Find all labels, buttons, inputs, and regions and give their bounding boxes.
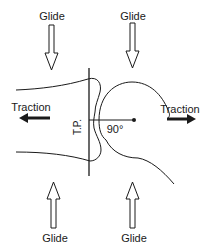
traction-arrow-left [19,113,50,123]
glide-arrow-bottom-left [47,182,60,228]
glide-label-top-left: Glide [39,10,65,22]
joint-mechanics-diagram: Glide Glide Glide Glide T.P. [0,0,205,249]
angle-label: 90° [107,123,124,135]
treatment-plane-label: T.P. [72,119,83,135]
left-bone-outline [16,78,101,161]
traction-arrow-right [167,114,196,124]
glide-arrow-bottom-right [126,182,139,228]
traction-label-left: Traction [11,101,50,113]
traction-label-right: Traction [160,103,199,115]
rotation-center-point [132,118,136,122]
glide-label-bottom-right: Glide [121,232,147,244]
glide-label-top-right: Glide [120,10,146,22]
glide-arrow-top-left [45,25,58,70]
glide-label-bottom-left: Glide [42,232,68,244]
glide-arrow-top-right [126,23,139,68]
diagram-canvas: Glide Glide Glide Glide T.P. [0,0,205,249]
